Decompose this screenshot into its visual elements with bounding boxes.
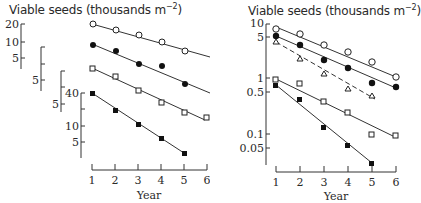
svg-text:0.1: 0.1 xyxy=(247,128,265,141)
series-open-square xyxy=(90,66,209,120)
right-x-label: Year xyxy=(323,190,349,203)
svg-text:5: 5 xyxy=(181,174,188,187)
svg-text:2: 2 xyxy=(112,174,119,187)
svg-text:10: 10 xyxy=(5,36,19,49)
right-title-exponent: −2 xyxy=(405,3,416,12)
svg-text:5: 5 xyxy=(32,74,39,87)
right-title-close: ) xyxy=(416,4,420,18)
svg-text:1: 1 xyxy=(273,176,280,189)
svg-text:40: 40 xyxy=(65,87,79,100)
svg-text:5: 5 xyxy=(257,31,264,44)
svg-text:3: 3 xyxy=(135,174,142,187)
svg-text:10: 10 xyxy=(65,120,79,133)
svg-text:1: 1 xyxy=(257,72,264,85)
svg-text:2: 2 xyxy=(297,176,304,189)
svg-text:5: 5 xyxy=(52,98,59,111)
svg-text:1: 1 xyxy=(89,174,96,187)
svg-text:3: 3 xyxy=(321,176,328,189)
svg-text:0.05: 0.05 xyxy=(240,142,265,155)
svg-text:0.5: 0.5 xyxy=(247,86,265,99)
left-chart-plot: 20 10 5 5 5 40 10 5 1 2 3 4 5 6 Year xyxy=(0,0,210,203)
svg-text:20: 20 xyxy=(5,18,19,31)
svg-text:5: 5 xyxy=(369,176,376,189)
svg-text:10: 10 xyxy=(250,17,264,30)
svg-text:4: 4 xyxy=(158,174,165,187)
left-x-label: Year xyxy=(136,189,162,202)
svg-text:5: 5 xyxy=(72,136,79,149)
right-chart: Viable seeds (thousands m−2) xyxy=(210,0,404,203)
svg-text:6: 6 xyxy=(393,176,400,189)
left-chart: Viable seeds (thousands m−2) xyxy=(0,0,210,203)
right-chart-plot: 10 5 1 0.5 0.1 0.05 1 2 3 4 5 6 Year xyxy=(210,0,404,203)
svg-text:4: 4 xyxy=(345,176,352,189)
svg-text:5: 5 xyxy=(12,52,19,65)
